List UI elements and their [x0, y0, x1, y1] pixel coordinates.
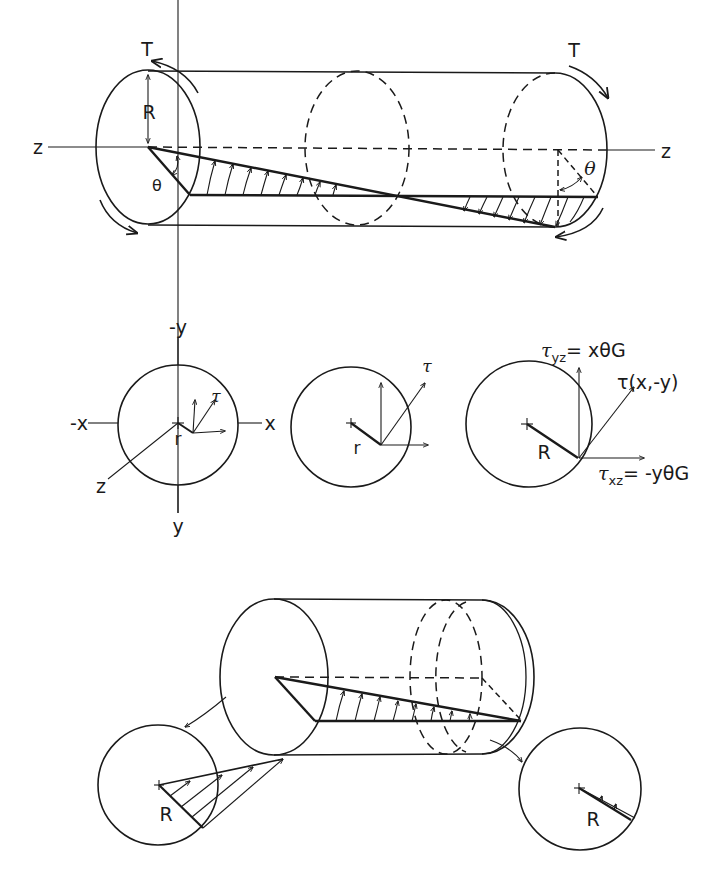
axis-label-neg-y: -y — [169, 316, 187, 338]
angle-label-right: θ — [584, 157, 596, 179]
radius-label: R — [142, 101, 155, 123]
radius-label-R3: R — [537, 441, 550, 463]
torque-arrow-right-bottom — [556, 208, 603, 237]
tau-yz-label: τyz= xθG — [541, 339, 626, 365]
angle-label-left: θ — [152, 176, 162, 195]
cross-section-1: -y y -x x z r τ — [70, 0, 276, 537]
torque-arrow-left-top — [152, 61, 198, 93]
radius-label-r2: r — [354, 438, 361, 458]
stress-label-tau1: τ — [211, 386, 221, 406]
bottom-cylinder — [185, 599, 534, 762]
cross-section-2: r τ — [291, 356, 432, 487]
shear-arrows-bottom — [336, 691, 470, 721]
axis-label-z: z — [96, 475, 106, 497]
tau-total-label: τ(x,-y) — [617, 371, 678, 393]
torsion-diagram: T T R z z θ θ -y y -x x z r τ — [0, 0, 728, 876]
radius-label-r1: r — [175, 429, 182, 449]
cross-section-3: R τyz= xθG τ(x,-y) τxz= -yθG — [466, 339, 689, 488]
top-cylinder: T T R z z θ θ — [33, 38, 671, 237]
torque-label-left: T — [140, 38, 153, 60]
torque-label-right: T — [567, 39, 580, 61]
z-axis-label-left: z — [33, 136, 43, 158]
axis-label-pos-x: x — [264, 412, 275, 434]
radius-label-bottom-right: R — [586, 808, 599, 830]
torque-arrow-right-top — [569, 66, 608, 98]
radius-label-bottom-left: R — [159, 803, 172, 825]
stress-label-tau2: τ — [422, 356, 432, 376]
leader-arrow-left — [185, 697, 226, 727]
torque-arrow-left-bottom — [100, 200, 137, 233]
bottom-left-section: R — [98, 725, 283, 845]
bottom-right-section: R — [519, 728, 641, 850]
shear-arrows-left — [207, 161, 336, 195]
tau-xz-label: τxz= -yθG — [598, 462, 689, 488]
axis-label-pos-y: y — [172, 515, 183, 537]
z-axis-label-right: z — [661, 140, 671, 162]
axis-label-neg-x: -x — [70, 412, 88, 434]
